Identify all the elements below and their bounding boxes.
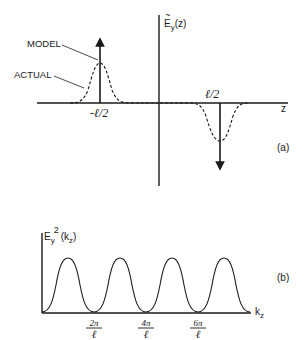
svg-text:4π: 4π (141, 318, 151, 328)
model-label: MODEL (27, 38, 61, 49)
actual-leader-line (54, 76, 84, 88)
svg-text:ℓ: ℓ (92, 328, 97, 340)
ey2-axis-label: Ey2(kz) (44, 225, 76, 245)
svg-text:6π: 6π (193, 318, 203, 328)
actual-pulse-positive (70, 63, 158, 103)
kz-axis-label: kz (255, 306, 264, 320)
ey-axis-label: Ey(z) (164, 18, 186, 32)
tick-4pi: 4π ℓ (138, 318, 154, 340)
panel-a-tag: (a) (277, 142, 289, 153)
svg-text:2π: 2π (89, 318, 99, 328)
tick-6pi: 6π ℓ (190, 318, 206, 340)
figure: MODEL ACTUAL -ℓ/2 ℓ/2 ~ Ey(z) z (a) Ey2(… (0, 0, 305, 340)
model-leader-line (62, 45, 98, 60)
left-tick-label: -ℓ/2 (90, 106, 108, 120)
actual-label: ACTUAL (14, 69, 51, 80)
svg-text:ℓ: ℓ (196, 328, 201, 340)
panel-b-tag: (b) (277, 272, 289, 283)
panel-a: MODEL ACTUAL -ℓ/2 ℓ/2 ~ Ey(z) z (a) (14, 10, 289, 186)
svg-text:ℓ: ℓ (144, 328, 149, 340)
ey2-curve (42, 258, 250, 312)
right-tick-label: ℓ/2 (205, 87, 219, 101)
z-axis-label: z (281, 103, 286, 114)
panel-b: Ey2(kz) 2π ℓ 4π ℓ 6π ℓ kz (b) (42, 225, 289, 340)
actual-pulse-negative (160, 103, 248, 141)
tick-2pi: 2π ℓ (86, 318, 102, 340)
